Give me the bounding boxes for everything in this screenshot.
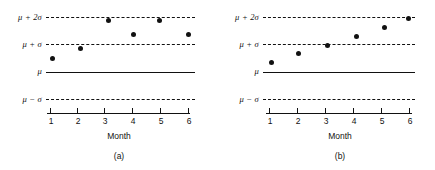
ref-line-mu-minus-sigma-a xyxy=(46,99,195,100)
data-point xyxy=(186,32,191,37)
x-tick xyxy=(325,108,326,113)
x-tick-label: 1 xyxy=(268,116,273,126)
data-point xyxy=(157,18,162,23)
ref-line-mu-plus-2sigma-a xyxy=(46,17,195,18)
x-tick-label: 2 xyxy=(76,116,81,126)
x-tick xyxy=(104,108,105,113)
ref-label-mu-minus-sigma-a: μ − σ xyxy=(2,94,42,104)
figure-container: μ + 2σ μ + σ μ μ − σ 1 2 xyxy=(0,0,435,170)
x-tick xyxy=(381,108,382,113)
x-tick-label: 2 xyxy=(296,116,301,126)
ref-label-mu-plus-2sigma-a: μ + 2σ xyxy=(2,12,42,22)
x-tick xyxy=(160,108,161,113)
data-point xyxy=(78,46,83,51)
x-axis-b xyxy=(266,113,412,114)
x-tick-label: 3 xyxy=(103,116,108,126)
x-tick-label: 5 xyxy=(380,116,385,126)
x-tick xyxy=(269,108,270,113)
ref-line-mu-plus-sigma-a xyxy=(46,44,195,45)
data-point xyxy=(269,60,274,65)
ref-label-mu-plus-sigma-a: μ + σ xyxy=(2,39,42,49)
ref-label-mu-a: μ xyxy=(2,66,42,76)
x-tick-label: 3 xyxy=(324,116,329,126)
x-tick-label: 4 xyxy=(131,116,136,126)
data-point xyxy=(354,34,359,39)
ref-label-mu-minus-sigma-b: μ − σ xyxy=(219,94,259,104)
data-point xyxy=(106,18,111,23)
x-tick-label: 6 xyxy=(408,116,413,126)
panel-caption-b: (b) xyxy=(335,151,345,161)
x-axis-a xyxy=(47,113,190,114)
ref-label-mu-plus-sigma-b: μ + σ xyxy=(219,39,259,49)
x-tick-label: 1 xyxy=(49,116,54,126)
data-point xyxy=(50,56,55,61)
x-tick xyxy=(353,108,354,113)
ref-line-mu-b xyxy=(263,72,415,73)
x-tick xyxy=(188,108,189,113)
plot-area-b: μ + 2σ μ + σ μ μ − σ 1 2 xyxy=(217,0,435,170)
chart-panel-b: μ + 2σ μ + σ μ μ − σ 1 2 xyxy=(217,0,435,170)
panel-caption-a: (a) xyxy=(114,151,124,161)
ref-label-mu-plus-2sigma-b: μ + 2σ xyxy=(219,12,259,22)
ref-line-mu-plus-sigma-b xyxy=(263,44,415,45)
data-point xyxy=(325,43,330,48)
x-tick-label: 5 xyxy=(159,116,164,126)
chart-panel-a: μ + 2σ μ + σ μ μ − σ 1 2 xyxy=(0,0,218,170)
ref-label-mu-b: μ xyxy=(219,66,259,76)
x-tick xyxy=(409,108,410,113)
ref-line-mu-plus-2sigma-b xyxy=(263,17,415,18)
x-tick xyxy=(77,108,78,113)
x-tick-label: 6 xyxy=(187,116,192,126)
data-point xyxy=(296,51,301,56)
ref-line-mu-a xyxy=(46,72,195,73)
x-axis-title-b: Month xyxy=(328,131,352,141)
data-point xyxy=(382,25,387,30)
data-point xyxy=(406,16,411,21)
data-point xyxy=(131,32,136,37)
x-tick xyxy=(132,108,133,113)
x-tick xyxy=(50,108,51,113)
plot-area-a: μ + 2σ μ + σ μ μ − σ 1 2 xyxy=(0,0,218,170)
ref-line-mu-minus-sigma-b xyxy=(263,99,415,100)
x-axis-title-a: Month xyxy=(107,131,131,141)
x-tick-label: 4 xyxy=(352,116,357,126)
x-tick xyxy=(297,108,298,113)
